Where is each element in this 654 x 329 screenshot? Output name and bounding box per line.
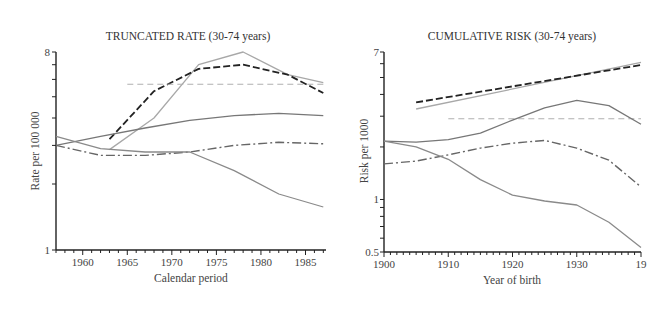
series-line-medium-solid xyxy=(384,100,641,142)
x-axis-label: Year of birth xyxy=(483,274,541,286)
chart-figure: TRUNCATED RATE (30-74 years) Calendar pe… xyxy=(0,0,654,329)
y-axis-label: Risk per 1000 xyxy=(358,118,371,183)
x-tick-label: 1960 xyxy=(72,256,95,268)
x-tick-label: 1910 xyxy=(437,258,460,270)
y-axis-label: Rate per 100 000 xyxy=(29,111,42,190)
cumulative-risk-panel: CUMULATIVE RISK (30-74 years) Year of bi… xyxy=(358,30,647,286)
x-tick-label: 1920 xyxy=(502,258,525,270)
x-tick-label: 1930 xyxy=(566,258,589,270)
chart-title: TRUNCATED RATE (30-74 years) xyxy=(106,30,271,43)
x-tick-label: 1900 xyxy=(373,258,396,270)
x-axis-label: Calendar period xyxy=(154,272,228,285)
series-line-dark-dashed xyxy=(416,65,641,102)
series-line-medium-solid-rising xyxy=(56,113,323,145)
x-tick-label: 1975 xyxy=(205,256,228,268)
series-line-dash-dot xyxy=(56,142,323,155)
truncated-rate-panel: TRUNCATED RATE (30-74 years) Calendar pe… xyxy=(29,30,326,285)
y-tick-label: 7 xyxy=(374,46,380,58)
series-line-dash-dot xyxy=(384,140,641,187)
series-line-light-solid-upper xyxy=(416,62,641,109)
x-tick-label: 19 xyxy=(636,258,648,270)
y-tick-label: 1 xyxy=(374,193,380,205)
x-tick-label: 1965 xyxy=(116,256,139,268)
x-tick-label: 1980 xyxy=(250,256,273,268)
y-tick-label: 1 xyxy=(45,244,51,256)
y-tick-label: 8 xyxy=(45,46,51,58)
series-line-solid-declining xyxy=(56,136,323,207)
y-tick-label: 0.5 xyxy=(365,246,379,258)
chart-title: CUMULATIVE RISK (30-74 years) xyxy=(428,30,596,43)
x-tick-label: 1985 xyxy=(295,256,318,268)
x-tick-label: 1970 xyxy=(161,256,184,268)
